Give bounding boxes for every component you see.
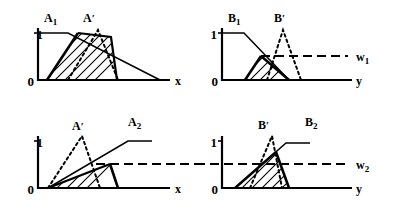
axis-label-x-top-left: x [175,74,181,88]
label-b1: B1 [228,11,241,27]
tick-label-one-top-left: 1 [37,27,44,42]
label-w2: w2 [356,158,370,174]
panel-bottom-left: 1 0 x A′ A2 [28,115,197,205]
diagram-canvas: 1 0 x A1 A′ 1 0 y B1 B′ w1 [0,0,393,212]
clip-edge-right-top-left [78,33,117,80]
axis-label-y-bottom-right: y [356,182,362,196]
clip-edge-right-bottom-left [110,164,118,188]
tick-label-zero-top-left: 0 [28,74,35,89]
label-a-prime-bottom: A′ [72,119,84,133]
tick-label-one-bottom-left: 1 [37,135,44,150]
tick-label-zero-bottom-right: 0 [212,182,219,197]
tick-label-zero-top-right: 0 [212,74,219,89]
label-a1: A1 [44,11,58,27]
tick-label-zero-bottom-left: 0 [28,182,35,197]
axes-top-right [222,28,352,80]
panel-top-left: 1 0 x A1 A′ [20,11,181,95]
clip-edge-left-bottom-left [48,164,110,188]
axes-bottom-left [38,136,170,188]
label-w1: w1 [356,50,370,66]
fuzzy-membership-diagram: 1 0 x A1 A′ 1 0 y B1 B′ w1 [0,0,393,212]
panel-bottom-right: 1 0 y B′ B2 w2 [196,115,370,205]
label-b-prime-bottom: B′ [258,118,269,132]
tick-label-one-bottom-right: 1 [211,135,218,150]
hatch-region-top-right [225,45,305,95]
panel-top-right: 1 0 y B1 B′ w1 [211,11,370,95]
axis-label-x-bottom-left: x [175,182,181,196]
label-a-prime-top: A′ [83,11,95,25]
tick-label-one-top-right: 1 [211,27,218,42]
clip-edge-right-top-right [261,56,289,80]
label-a2: A2 [128,115,142,131]
axis-label-y-top-right: y [356,74,362,88]
curve-b2 [235,143,310,188]
label-b2: B2 [305,115,318,131]
hatch-region-bottom-right [215,145,325,205]
label-b-prime-top: B′ [274,11,285,25]
